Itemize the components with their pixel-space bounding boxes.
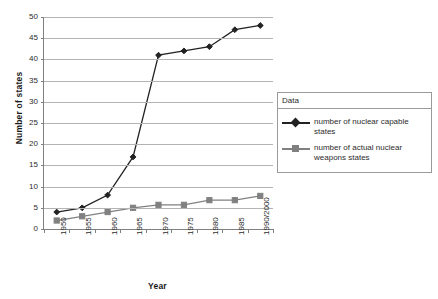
x-tick-label: 1975: [187, 217, 195, 235]
data-point-marker: [54, 209, 60, 215]
y-tick-label: 50: [18, 13, 38, 21]
x-tick-mark: [95, 229, 96, 233]
data-point-marker: [181, 202, 186, 207]
y-tick-mark: [41, 123, 44, 124]
x-tick-mark: [120, 229, 121, 233]
gridline: [44, 144, 273, 145]
legend-title: Data: [278, 93, 431, 109]
gridline: [44, 17, 273, 18]
gridline: [44, 123, 273, 124]
x-tick-label: 1955: [85, 217, 93, 235]
gridline: [44, 59, 273, 60]
x-tick-mark: [69, 229, 70, 233]
legend-items: number of nuclear capable statesnumber o…: [278, 109, 431, 172]
legend-item-1[interactable]: number of nuclear capable states: [278, 114, 431, 140]
gridline: [44, 165, 273, 166]
x-tick-label: 1960: [111, 217, 119, 235]
y-tick-label: 0: [18, 225, 38, 233]
data-point-marker: [207, 198, 212, 203]
y-tick-mark: [41, 102, 44, 103]
diamond-marker-icon: [282, 118, 310, 128]
gridline: [44, 38, 273, 39]
y-tick-mark: [41, 144, 44, 145]
y-tick-label: 45: [18, 34, 38, 42]
y-tick-label: 20: [18, 140, 38, 148]
y-axis-tick-labels: 05101520253035404550: [16, 0, 38, 299]
y-tick-mark: [41, 187, 44, 188]
x-tick-label: 1970: [162, 217, 170, 235]
y-tick-label: 30: [18, 98, 38, 106]
chart-legend: Data number of nuclear capable statesnum…: [277, 92, 432, 173]
y-tick-label: 15: [18, 161, 38, 169]
y-tick-label: 40: [18, 55, 38, 63]
gridline: [44, 81, 273, 82]
y-tick-mark: [41, 208, 44, 209]
legend-item-label: number of nuclear capable states: [310, 117, 427, 137]
data-point-marker: [232, 198, 237, 203]
x-tick-mark: [222, 229, 223, 233]
data-point-marker: [105, 209, 110, 214]
line-chart: Number of states 05101520253035404550 19…: [0, 0, 438, 299]
x-tick-mark: [197, 229, 198, 233]
x-tick-label: 1985: [238, 217, 246, 235]
y-tick-mark: [41, 81, 44, 82]
y-tick-mark: [41, 17, 44, 18]
plot-area: [43, 17, 273, 230]
y-tick-mark: [41, 165, 44, 166]
gridline: [44, 208, 273, 209]
x-tick-label: 1950: [60, 217, 68, 235]
x-tick-label: 1990/2000: [263, 197, 271, 235]
x-tick-label: 1980: [212, 217, 220, 235]
legend-item-label: number of actual nuclear weapons states: [310, 143, 427, 163]
x-tick-mark: [146, 229, 147, 233]
y-tick-label: 5: [18, 204, 38, 212]
y-tick-label: 10: [18, 183, 38, 191]
y-tick-mark: [41, 38, 44, 39]
data-point-marker: [156, 52, 162, 58]
x-tick-label: 1965: [136, 217, 144, 235]
x-tick-mark: [44, 229, 45, 233]
legend-item-2[interactable]: number of actual nuclear weapons states: [278, 140, 431, 166]
x-tick-mark: [171, 229, 172, 233]
data-point-marker: [257, 23, 263, 29]
square-marker-icon: [282, 144, 310, 154]
y-tick-mark: [41, 59, 44, 60]
data-point-marker: [156, 202, 161, 207]
y-tick-label: 35: [18, 77, 38, 85]
gridline: [44, 187, 273, 188]
y-tick-label: 25: [18, 119, 38, 127]
x-tick-mark: [273, 229, 274, 233]
data-point-marker: [181, 48, 187, 54]
x-tick-mark: [248, 229, 249, 233]
gridline: [44, 102, 273, 103]
x-axis-title: Year: [43, 281, 272, 291]
